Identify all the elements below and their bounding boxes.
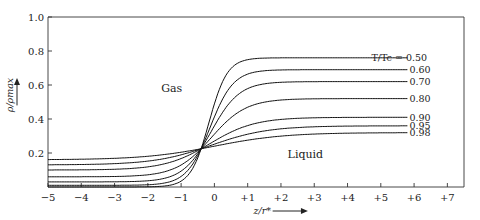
x-tick-label: −3 bbox=[107, 192, 122, 203]
axes: −5−4−3−2−10+1+2+3+4+5+6+70.20.40.60.81.0 bbox=[28, 12, 464, 204]
curve-0.50 bbox=[48, 58, 407, 187]
y-tick-label: 0.6 bbox=[28, 80, 44, 91]
x-axis-arrow-icon bbox=[301, 208, 308, 214]
curve-label-0.60: 0.60 bbox=[409, 64, 430, 75]
curve-0.80 bbox=[48, 99, 407, 177]
x-tick-label: +5 bbox=[373, 192, 388, 203]
region-label-liquid: Liquid bbox=[288, 148, 324, 161]
plot-frame bbox=[48, 17, 464, 187]
region-label-gas: Gas bbox=[161, 82, 182, 95]
x-tick-label: +2 bbox=[274, 192, 289, 203]
x-tick-label: 0 bbox=[211, 192, 217, 203]
y-tick-label: 1.0 bbox=[28, 12, 44, 23]
y-tick-label: 0.8 bbox=[28, 46, 44, 57]
x-axis-label: z/r* bbox=[252, 205, 271, 216]
x-tick-label: −2 bbox=[140, 192, 155, 203]
curves bbox=[48, 58, 407, 187]
x-tick-label: +4 bbox=[340, 192, 355, 203]
y-axis-label: ρ/ρmax bbox=[4, 77, 15, 113]
curve-label-0.50: T/Tc = 0.50 bbox=[371, 52, 427, 63]
y-tick-label: 0.2 bbox=[28, 148, 44, 159]
x-tick-label: −5 bbox=[41, 192, 56, 203]
x-tick-label: +3 bbox=[307, 192, 322, 203]
curve-0.60 bbox=[48, 70, 407, 186]
curve-0.70 bbox=[48, 82, 407, 182]
curve-0.98 bbox=[48, 133, 407, 160]
curve-label-0.80: 0.80 bbox=[409, 93, 430, 104]
x-tick-label: +1 bbox=[240, 192, 255, 203]
x-tick-label: −4 bbox=[74, 192, 89, 203]
x-tick-label: +7 bbox=[440, 192, 455, 203]
curve-label-0.70: 0.70 bbox=[409, 76, 430, 87]
x-tick-label: +6 bbox=[407, 192, 422, 203]
x-tick-label: −1 bbox=[174, 192, 189, 203]
density-profile-chart: −5−4−3−2−10+1+2+3+4+5+6+70.20.40.60.81.0… bbox=[0, 0, 480, 220]
curve-label-0.98: 0.98 bbox=[409, 127, 430, 138]
y-tick-label: 0.4 bbox=[28, 114, 44, 125]
